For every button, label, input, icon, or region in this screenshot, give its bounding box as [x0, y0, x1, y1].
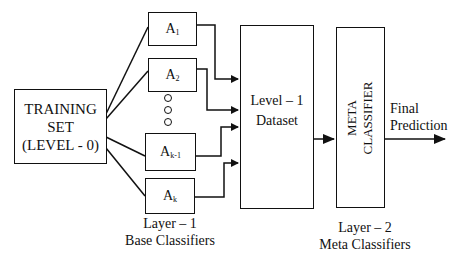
- level1-line1: Level – 1: [251, 91, 304, 111]
- classifier-ak-box: Ak: [145, 178, 195, 214]
- meta-line2: CLASSIFIER: [361, 81, 377, 154]
- layer1-caption-line2: Base Classifiers: [120, 232, 220, 249]
- edge-train-ak1: [106, 137, 145, 156]
- classifier-ak-label: Ak: [163, 188, 177, 204]
- level1-dataset-box: Level – 1 Dataset: [240, 25, 314, 209]
- edge-a2-level1: [196, 69, 238, 110]
- training-set-line1: TRAINING: [22, 100, 99, 118]
- final-prediction-label: Final Prediction: [390, 100, 448, 134]
- layer2-caption-line2: Meta Classifiers: [310, 236, 420, 253]
- classifier-a1-box: A1: [148, 12, 197, 46]
- edge-train-a2: [106, 71, 148, 119]
- ellipsis-dot-2: [164, 106, 172, 114]
- edge-a1-level1: [196, 25, 238, 79]
- edge-ak-level1: [194, 163, 238, 197]
- layer1-caption-line1: Layer – 1: [120, 215, 220, 232]
- ellipsis-dot-3: [164, 118, 172, 126]
- layer1-caption: Layer – 1 Base Classifiers: [120, 215, 220, 249]
- training-set-line2: SET: [22, 118, 99, 136]
- meta-classifier-box: META CLASSIFIER: [336, 27, 385, 208]
- classifier-a2-label: A2: [165, 67, 179, 83]
- final-prediction-line2: Prediction: [390, 117, 448, 134]
- classifier-ak1-label: Ak-1: [160, 144, 181, 160]
- level1-line2: Dataset: [251, 111, 304, 131]
- layer2-caption-line1: Layer – 2: [310, 219, 420, 236]
- classifier-a2-box: A2: [148, 58, 197, 92]
- layer2-caption: Layer – 2 Meta Classifiers: [310, 219, 420, 253]
- training-set-line3: (LEVEL - 0): [22, 136, 99, 154]
- classifier-ak1-box: Ak-1: [145, 133, 196, 171]
- final-prediction-line1: Final: [390, 100, 448, 117]
- edge-train-ak: [106, 148, 145, 196]
- training-set-box: TRAINING SET (LEVEL - 0): [14, 89, 107, 164]
- edge-ak1-level1: [195, 127, 238, 156]
- classifier-a1-label: A1: [165, 21, 179, 37]
- meta-line1: META: [345, 81, 361, 154]
- edge-train-a1: [106, 27, 148, 114]
- ellipsis-dot-1: [164, 94, 172, 102]
